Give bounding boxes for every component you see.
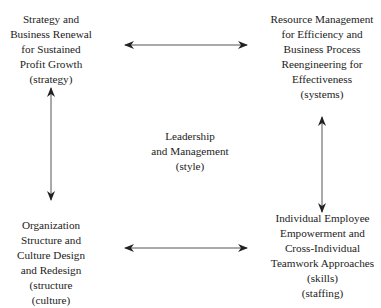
- node-line: and Redesign: [0, 263, 102, 278]
- node-line: Profit Growth: [0, 57, 102, 72]
- node-line: for Efficiency and: [264, 27, 380, 42]
- node-line: Business Renewal: [0, 27, 102, 42]
- node-structure: Organization Structure and Culture Desig…: [0, 218, 102, 308]
- node-line: Resource Management: [264, 12, 380, 27]
- node-line: (systems): [264, 87, 380, 102]
- node-line: for Sustained: [0, 42, 102, 57]
- node-line: and Management: [140, 144, 240, 159]
- node-line: Strategy and: [0, 12, 102, 27]
- node-line: Empowerment and: [264, 226, 381, 241]
- node-strategy: Strategy and Business Renewal for Sustai…: [0, 12, 102, 87]
- node-line: Effectiveness: [264, 72, 380, 87]
- node-style: Leadership and Management (style): [140, 129, 240, 174]
- node-systems: Resource Management for Efficiency and B…: [264, 12, 380, 102]
- node-line: Individual Employee: [264, 211, 381, 226]
- node-line: Organization: [0, 218, 102, 233]
- node-line: Leadership: [140, 129, 240, 144]
- node-line: (style): [140, 159, 240, 174]
- node-line: (skills): [264, 271, 381, 286]
- node-line: (staffing): [264, 286, 381, 301]
- node-line: (culture): [0, 293, 102, 308]
- node-line: Cross-Individual: [264, 241, 381, 256]
- node-line: Business Process: [264, 42, 380, 57]
- node-line: Structure and: [0, 233, 102, 248]
- node-line: (strategy): [0, 72, 102, 87]
- node-line: Teamwork Approaches: [264, 256, 381, 271]
- node-line: Reengineering for: [264, 57, 380, 72]
- node-line: (structure: [0, 278, 102, 293]
- node-line: Culture Design: [0, 248, 102, 263]
- node-skills: Individual Employee Empowerment and Cros…: [264, 211, 381, 301]
